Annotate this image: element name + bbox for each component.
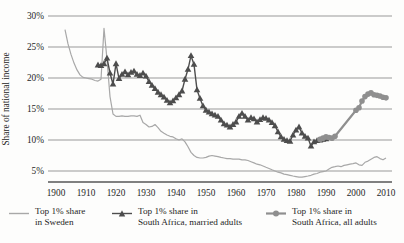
svg-text:1950: 1950 [197,188,216,198]
legend-label-sa-married-line2: South Africa, married adults [138,217,242,227]
circle-line-marker-icon [265,209,287,221]
svg-text:2010: 2010 [377,188,396,198]
svg-text:2000: 2000 [347,188,366,198]
x-axis-tick-labels: 1900191019201930194019501960197019801990… [47,188,396,198]
series-lines [65,28,389,177]
legend-item-sweden: Top 1% share in Sweden [8,206,85,228]
legend-label-sweden-line1: Top 1% share [35,206,85,216]
legend-label-sa-married-line1: Top 1% share in [138,206,198,216]
svg-text:1960: 1960 [227,188,246,198]
y-axis-tick-labels: 30%25%20%15%10%5% [27,11,44,176]
svg-text:5%: 5% [32,166,45,176]
triangle-line-marker-icon [111,209,133,221]
plot-area: 30%25%20%15%10%5% 1900191019201930194019… [0,0,404,202]
svg-text:1970: 1970 [257,188,276,198]
chart-figure: 30%25%20%15%10%5% 1900191019201930194019… [0,0,404,243]
legend-label-sa-married: Top 1% share in South Africa, married ad… [138,206,242,228]
svg-text:1990: 1990 [317,188,336,198]
svg-text:1980: 1980 [287,188,306,198]
svg-text:15%: 15% [27,104,44,114]
svg-text:20%: 20% [27,73,44,83]
svg-text:1920: 1920 [107,188,126,198]
svg-text:1930: 1930 [137,188,156,198]
legend-item-sa-married: Top 1% share in South Africa, married ad… [111,206,242,228]
svg-text:1940: 1940 [167,188,186,198]
svg-text:1900: 1900 [47,188,66,198]
gridlines [48,16,392,171]
svg-text:10%: 10% [27,135,44,145]
svg-text:25%: 25% [27,42,44,52]
legend-label-sa-all: Top 1% share in South Africa, all adults [292,206,377,228]
y-axis-title: Share of national income [1,52,11,145]
legend: Top 1% share in Sweden Top 1% share in S… [0,204,404,240]
legend-item-sa-all: Top 1% share in South Africa, all adults [265,206,377,228]
svg-text:30%: 30% [27,11,44,21]
legend-label-sa-all-line2: South Africa, all adults [292,217,377,227]
legend-label-sweden: Top 1% share in Sweden [35,206,85,228]
legend-label-sa-all-line1: Top 1% share in [292,206,352,216]
svg-text:1910: 1910 [77,188,96,198]
legend-label-sweden-line2: in Sweden [35,217,74,227]
sweden-line-marker-icon [8,209,30,221]
